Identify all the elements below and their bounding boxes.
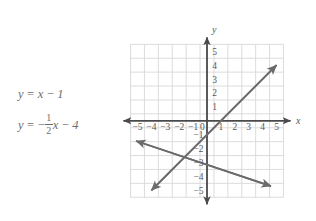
x-tick-label: 2 bbox=[232, 122, 237, 132]
y-tick-label: 2 bbox=[212, 88, 217, 98]
x-tick-label: −4 bbox=[146, 122, 156, 132]
y-tick-label: 1 bbox=[212, 102, 217, 112]
y-tick-label: −4 bbox=[193, 172, 203, 182]
x-tick-label: 1 bbox=[219, 122, 224, 132]
y-tick-label: −5 bbox=[193, 186, 203, 196]
figure-root: y = x − 1 y = − 1 2 x − 4 bbox=[0, 0, 316, 221]
y-tick-label: 3 bbox=[212, 75, 217, 85]
x-tick-label: 4 bbox=[260, 122, 265, 132]
y-tick-label: −1 bbox=[193, 130, 203, 140]
y-tick-label: −3 bbox=[193, 158, 203, 168]
coordinate-plane: −5−4−3−2−1012345−5−4−3−2−112345xy bbox=[0, 0, 316, 221]
axes bbox=[124, 37, 291, 204]
x-axis-label: x bbox=[295, 115, 301, 126]
y-axis-label: y bbox=[211, 24, 217, 35]
x-tick-label: −2 bbox=[174, 122, 184, 132]
x-tick-label: −3 bbox=[160, 122, 170, 132]
y-tick-label: 5 bbox=[212, 47, 217, 57]
x-tick-label: 3 bbox=[246, 122, 251, 132]
y-tick-label: 4 bbox=[212, 61, 217, 71]
y-tick-label: −2 bbox=[193, 144, 203, 154]
graph-svg: −5−4−3−2−1012345−5−4−3−2−112345xy bbox=[0, 0, 316, 221]
tick-labels: −5−4−3−2−1012345−5−4−3−2−112345xy bbox=[132, 24, 301, 195]
x-tick-label: 5 bbox=[274, 122, 279, 132]
x-tick-label: −5 bbox=[132, 122, 142, 132]
